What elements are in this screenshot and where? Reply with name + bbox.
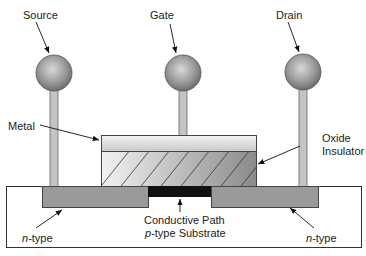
gate-label: Gate: [150, 9, 174, 21]
n-type-region-left: [43, 187, 149, 208]
source-terminal: [36, 55, 72, 91]
conductive-path-label: Conductive Path: [144, 214, 225, 226]
drain-lead: [299, 88, 307, 187]
gate-terminal: [165, 55, 201, 91]
n-type-label-left: n-type: [22, 232, 53, 244]
conductive-path: [148, 186, 211, 197]
source-lead: [50, 88, 58, 187]
oxide-label-line2: Insulator: [322, 145, 365, 157]
drain-label: Drain: [276, 9, 302, 21]
n-type-region-right: [212, 187, 319, 208]
gate-lead: [179, 88, 187, 136]
n-type-label-right: n-type: [306, 232, 337, 244]
metal-label: Metal: [8, 120, 35, 132]
substrate-label: p-type Substrate: [144, 227, 226, 239]
drain-terminal: [285, 54, 321, 90]
metal-layer: [102, 136, 257, 152]
source-label: Source: [23, 9, 58, 21]
mosfet-diagram: Source Gate Drain Metal Oxide Insulator …: [0, 0, 366, 256]
oxide-label-line1: Oxide: [322, 132, 351, 144]
